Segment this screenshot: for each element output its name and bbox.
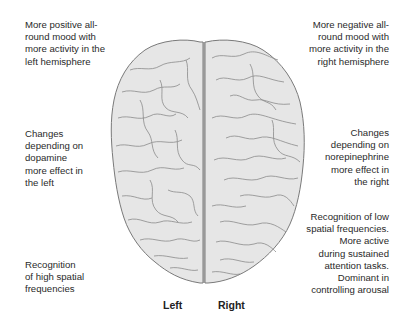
hemisphere-label-right: Right [218,299,245,311]
left-note-mood: More positive all- round mood with more … [25,19,105,68]
right-note-mood: More negative all- round mood with more … [309,19,389,68]
right-note-low-spatial-frequencies: Recognition of low spatial frequencies. … [306,211,389,296]
right-note-norepinephrine: Changes depending on norepinephrine more… [325,127,389,188]
left-note-high-spatial-frequencies: Recognition of high spatial frequencies [25,259,84,296]
left-hemisphere [111,40,203,283]
hemisphere-label-left: Left [163,299,182,311]
right-hemisphere [205,40,304,283]
left-note-dopamine: Changes depending on dopamine more effec… [25,128,83,189]
